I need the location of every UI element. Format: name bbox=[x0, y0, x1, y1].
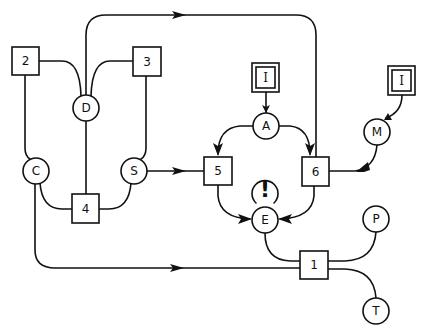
alert-mark: ! bbox=[260, 177, 270, 202]
edge-S-to-4 bbox=[99, 183, 131, 209]
node-label: T bbox=[371, 304, 380, 318]
node-label: E bbox=[261, 213, 269, 227]
node-box-2[interactable]: 2 bbox=[12, 47, 39, 75]
node-label: 3 bbox=[143, 55, 151, 69]
alert-icon: ! bbox=[252, 177, 278, 204]
node-box-3[interactable]: 3 bbox=[133, 47, 161, 76]
node-circle-T[interactable]: T bbox=[363, 298, 389, 324]
node-label: I bbox=[263, 71, 268, 85]
node-circle-S[interactable]: S bbox=[121, 158, 147, 184]
edge-6-to-E bbox=[280, 186, 314, 219]
node-box-4[interactable]: 4 bbox=[72, 194, 99, 223]
node-circle-P[interactable]: P bbox=[363, 206, 389, 232]
node-circle-A[interactable]: A bbox=[253, 113, 279, 139]
edge-C-to-4 bbox=[40, 183, 72, 209]
node-circle-D[interactable]: D bbox=[73, 95, 99, 121]
edge-M-to-6 bbox=[329, 145, 377, 171]
node-circle-E[interactable]: E bbox=[252, 207, 278, 233]
node-label: D bbox=[81, 101, 90, 115]
edge-1-to-T bbox=[328, 269, 376, 298]
edge-A-to-6 bbox=[279, 126, 310, 154]
arrow-left-icon bbox=[356, 162, 370, 172]
arrowheads bbox=[170, 11, 392, 272]
node-label: 1 bbox=[310, 258, 318, 272]
edge-1-to-P bbox=[328, 232, 376, 261]
node-box-1[interactable]: 1 bbox=[300, 251, 328, 279]
node-label: A bbox=[262, 119, 271, 133]
node-label: C bbox=[32, 164, 40, 178]
node-input-top[interactable]: I bbox=[252, 63, 279, 92]
node-label: P bbox=[372, 212, 379, 226]
edge-3-to-S bbox=[141, 76, 146, 159]
edge-E-to-1 bbox=[265, 233, 300, 261]
node-label: 2 bbox=[22, 54, 30, 68]
node-circle-C[interactable]: C bbox=[23, 158, 49, 184]
arrow-left-icon bbox=[278, 214, 292, 224]
arrow-right-icon bbox=[238, 214, 252, 224]
node-label: 5 bbox=[214, 164, 222, 178]
node-input-right[interactable]: I bbox=[388, 66, 415, 95]
node-label: I bbox=[399, 74, 404, 88]
node-box-5[interactable]: 5 bbox=[204, 157, 232, 185]
node-box-6[interactable]: 6 bbox=[302, 157, 329, 186]
node-label: S bbox=[130, 164, 138, 178]
edge-3-to-D bbox=[91, 61, 133, 96]
flow-diagram: 2 3 4 5 6 1 I I D C S bbox=[0, 0, 422, 332]
edge-2-to-C bbox=[25, 75, 30, 159]
node-label: 4 bbox=[82, 202, 90, 216]
edge-5-to-E bbox=[218, 185, 250, 219]
edge-2-to-D bbox=[39, 61, 81, 96]
edge-D-to-6-top-loop bbox=[86, 15, 316, 157]
node-label: 6 bbox=[312, 165, 320, 179]
node-circle-M[interactable]: M bbox=[364, 119, 390, 145]
edge-A-to-5 bbox=[218, 126, 253, 154]
node-label: M bbox=[372, 125, 382, 139]
